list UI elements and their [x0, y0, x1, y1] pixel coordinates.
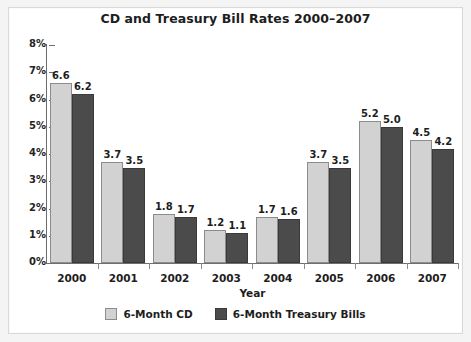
- legend-swatch-icon-cd: [105, 308, 117, 320]
- bar-value-label: 1.2: [203, 217, 227, 228]
- y-axis-tick-label: 3%: [29, 174, 46, 185]
- bar-cd-2005: [307, 162, 329, 263]
- x-axis-tick-mark: [304, 263, 305, 269]
- bar-value-label: 1.6: [277, 206, 301, 217]
- bar-value-label: 5.2: [358, 108, 382, 119]
- bar-tb-2004: [278, 219, 300, 263]
- bar-cd-2001: [101, 162, 123, 263]
- bar-group: 1.81.7: [153, 45, 197, 263]
- bar-value-label: 1.7: [174, 204, 198, 215]
- chart-figure: CD and Treasury Bill Rates 2000–2007 0%1…: [0, 0, 471, 342]
- y-axis-tick-label: 5%: [29, 120, 46, 131]
- bar-cd-2007: [410, 140, 432, 263]
- bar-tb-2003: [226, 233, 248, 263]
- chart-legend: 6-Month CD 6-Month Treasury Bills: [0, 308, 471, 320]
- bar-value-label: 3.7: [100, 149, 124, 160]
- bar-value-label: 3.5: [328, 155, 352, 166]
- legend-label-cd: 6-Month CD: [123, 308, 192, 320]
- y-axis-tick-label: 0%: [29, 256, 46, 267]
- x-axis-tick-mark: [355, 263, 356, 269]
- bar-group: 3.73.5: [307, 45, 351, 263]
- x-axis-tick-mark: [252, 263, 253, 269]
- bar-value-label: 1.7: [255, 204, 279, 215]
- bar-value-label: 4.2: [431, 136, 455, 147]
- x-axis-tick-mark: [98, 263, 99, 269]
- y-axis-tick-label: 1%: [29, 229, 46, 240]
- x-axis-title: Year: [46, 287, 459, 299]
- bar-tb-2000: [72, 94, 94, 263]
- bar-tb-2005: [329, 168, 351, 263]
- bar-tb-2001: [123, 168, 145, 263]
- bar-value-label: 4.5: [409, 127, 433, 138]
- y-axis-tick-mark: [49, 263, 55, 264]
- legend-item-cd: 6-Month CD: [105, 308, 192, 320]
- x-axis-label-2007: 2007: [402, 272, 462, 284]
- bar-cd-2002: [153, 214, 175, 263]
- bar-cd-2000: [50, 83, 72, 263]
- x-axis-tick-mark: [149, 263, 150, 269]
- bar-tb-2007: [432, 149, 454, 263]
- y-axis-tick-label: 4%: [29, 147, 46, 158]
- y-axis-tick-label: 2%: [29, 202, 46, 213]
- bar-value-label: 6.2: [71, 81, 95, 92]
- bar-group: 1.71.6: [256, 45, 300, 263]
- legend-swatch-icon-treasury-bills: [215, 308, 227, 320]
- chart-title: CD and Treasury Bill Rates 2000–2007: [0, 11, 471, 26]
- legend-label-treasury-bills: 6-Month Treasury Bills: [233, 308, 366, 320]
- bar-value-label: 3.7: [306, 149, 330, 160]
- y-axis-tick-label: 7%: [29, 65, 46, 76]
- bar-group: 1.21.1: [204, 45, 248, 263]
- plot-area: 6.66.23.73.51.81.71.21.11.71.63.73.55.25…: [46, 45, 458, 263]
- bar-value-label: 5.0: [380, 114, 404, 125]
- bar-cd-2003: [204, 230, 226, 263]
- bar-value-label: 6.6: [49, 70, 73, 81]
- y-axis-tick-label: 8%: [29, 38, 46, 49]
- bar-value-label: 1.8: [152, 201, 176, 212]
- bar-group: 3.73.5: [101, 45, 145, 263]
- bar-group: 6.66.2: [50, 45, 94, 263]
- bar-group: 5.25.0: [359, 45, 403, 263]
- y-axis-tick-label: 6%: [29, 93, 46, 104]
- bar-cd-2004: [256, 217, 278, 263]
- bar-tb-2006: [381, 127, 403, 263]
- bar-value-label: 1.1: [225, 220, 249, 231]
- x-axis-tick-mark: [458, 263, 459, 269]
- bar-tb-2002: [175, 217, 197, 263]
- bar-value-label: 3.5: [122, 155, 146, 166]
- x-axis-tick-mark: [201, 263, 202, 269]
- bar-group: 4.54.2: [410, 45, 454, 263]
- bar-cd-2006: [359, 121, 381, 263]
- x-axis-tick-mark: [407, 263, 408, 269]
- legend-item-treasury-bills: 6-Month Treasury Bills: [215, 308, 366, 320]
